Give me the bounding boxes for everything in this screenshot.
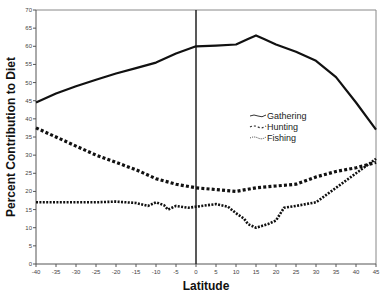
x-tick-label: 10	[233, 269, 240, 275]
y-tick-label: 60	[25, 43, 32, 49]
x-tick-label: -30	[72, 269, 81, 275]
y-tick-label: 20	[25, 188, 32, 194]
y-tick-label: 0	[29, 261, 33, 267]
x-axis-title: Latitude	[183, 279, 230, 293]
y-tick-label: 25	[25, 170, 32, 176]
legend-swatch-hunting	[250, 126, 266, 128]
x-tick-label: -20	[112, 269, 121, 275]
x-tick-label: -10	[152, 269, 161, 275]
x-tick-label: 30	[313, 269, 320, 275]
plot-frame	[36, 10, 376, 264]
series-layer	[36, 35, 376, 227]
x-tick-label: 0	[194, 269, 198, 275]
series-fishing-line	[36, 159, 376, 228]
legend-label-fishing: Fishing	[267, 133, 296, 143]
y-tick-label: 5	[29, 243, 33, 249]
x-tick-label: -25	[92, 269, 101, 275]
y-tick-label: 70	[25, 7, 32, 13]
x-tick-label: 25	[293, 269, 300, 275]
x-axis-ticks: -40-35-30-25-20-15-10-505101520253035404…	[32, 264, 380, 275]
x-tick-label: 35	[333, 269, 340, 275]
x-tick-label: -40	[32, 269, 41, 275]
x-tick-label: 15	[253, 269, 260, 275]
x-tick-label: -5	[173, 269, 179, 275]
x-tick-label: 20	[273, 269, 280, 275]
y-axis-title: Percent Contribution to Diet	[4, 57, 18, 217]
legend-label-hunting: Hunting	[267, 122, 298, 132]
y-tick-label: 35	[25, 134, 32, 140]
legend-swatch-gathering	[250, 115, 266, 117]
legend: GatheringHuntingFishing	[250, 111, 307, 143]
y-tick-label: 65	[25, 25, 32, 31]
x-tick-label: -35	[52, 269, 61, 275]
legend-swatch-fishing	[250, 137, 266, 139]
y-tick-label: 40	[25, 116, 32, 122]
y-tick-label: 10	[25, 225, 32, 231]
y-tick-label: 45	[25, 98, 32, 104]
x-tick-label: -15	[132, 269, 141, 275]
line-chart: 0510152025303540455055606570 -40-35-30-2…	[0, 0, 385, 296]
y-tick-label: 55	[25, 61, 32, 67]
series-hunting-line	[36, 128, 376, 191]
legend-label-gathering: Gathering	[267, 111, 307, 121]
y-tick-label: 15	[25, 207, 32, 213]
y-axis-ticks: 0510152025303540455055606570	[25, 7, 36, 267]
y-tick-label: 30	[25, 152, 32, 158]
y-tick-label: 50	[25, 80, 32, 86]
x-tick-label: 45	[373, 269, 380, 275]
x-tick-label: 40	[353, 269, 360, 275]
x-tick-label: 5	[214, 269, 218, 275]
series-gathering-line	[36, 35, 376, 129]
